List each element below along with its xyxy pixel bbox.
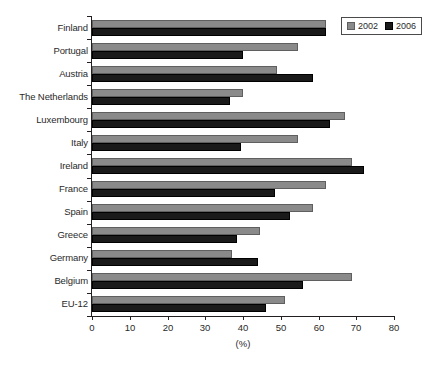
bar-2006 [92,166,364,174]
category-label: Finland [0,23,88,33]
y-axis-tick [87,247,91,248]
category-label: Germany [0,253,88,263]
plot-area: 01020304050607080 [92,16,394,316]
bar-group [92,158,394,174]
legend-label-2006: 2006 [396,21,416,31]
black-square-swatch-icon [385,22,393,30]
category-label: Austria [0,69,88,79]
bar-2002 [92,296,285,304]
category-label: Spain [0,207,88,217]
x-axis-tick-label: 60 [304,322,334,333]
x-axis-tick-label: 20 [153,322,183,333]
bar-group [92,135,394,151]
bar-2002 [92,273,352,281]
bar-2002 [92,181,326,189]
bar-2002 [92,43,298,51]
y-axis-tick [87,16,91,17]
x-axis-tick [130,316,131,320]
y-axis-tick [87,131,91,132]
bar-group [92,250,394,266]
chart-legend: 2002 2006 [341,17,422,35]
x-axis-tick-label: 30 [190,322,220,333]
bar-2006 [92,189,275,197]
bar-2002 [92,89,243,97]
bar-group [92,66,394,82]
bar-2002 [92,204,313,212]
x-axis-tick [205,316,206,320]
bar-2002 [92,158,352,166]
bar-2002 [92,66,277,74]
x-axis-tick-label: 50 [266,322,296,333]
bar-2002 [92,135,298,143]
y-axis-tick [87,270,91,271]
bar-group [92,227,394,243]
y-axis-tick [87,178,91,179]
x-axis-tick-label: 70 [341,322,371,333]
y-axis-tick [87,85,91,86]
bar-2006 [92,28,326,36]
x-axis-tick-label: 10 [115,322,145,333]
bar-2002 [92,20,326,28]
x-axis-tick [281,316,282,320]
bar-2006 [92,212,290,220]
y-axis-tick [87,62,91,63]
x-axis-tick-label: 40 [228,322,258,333]
legend-entry-2002: 2002 [347,21,378,31]
y-axis-tick [87,39,91,40]
bar-2006 [92,51,243,59]
x-axis-tick [92,316,93,320]
bar-2006 [92,258,258,266]
horizontal-bar-chart: FinlandPortugalAustriaThe NetherlandsLux… [0,0,442,366]
bar-group [92,181,394,197]
bar-group [92,89,394,105]
x-axis-tick-label: 0 [77,322,107,333]
y-axis-tick [87,201,91,202]
bar-2002 [92,227,260,235]
y-axis-tick [87,224,91,225]
legend-entry-2006: 2006 [385,21,416,31]
category-label: Greece [0,230,88,240]
gray-square-swatch-icon [347,22,355,30]
bar-group [92,204,394,220]
bar-2006 [92,235,237,243]
category-label: Belgium [0,276,88,286]
bar-2002 [92,112,345,120]
bar-2006 [92,281,303,289]
bar-2006 [92,304,266,312]
y-axis-tick [87,154,91,155]
bar-group [92,273,394,289]
x-axis-title: (%) [92,338,394,349]
bar-group [92,112,394,128]
x-axis-tick [319,316,320,320]
y-axis-tick [87,316,91,317]
bar-2006 [92,143,241,151]
category-label: The Netherlands [0,92,88,102]
x-axis-tick [356,316,357,320]
bar-2006 [92,74,313,82]
category-label: Italy [0,138,88,148]
bar-2002 [92,250,232,258]
bar-2006 [92,97,230,105]
category-label: France [0,184,88,194]
x-axis-tick [394,316,395,320]
x-axis-tick [168,316,169,320]
category-axis-labels: FinlandPortugalAustriaThe NetherlandsLux… [0,16,88,316]
x-axis-tick [243,316,244,320]
bar-2006 [92,120,330,128]
x-axis-tick-label: 80 [379,322,409,333]
bar-group [92,296,394,312]
legend-label-2002: 2002 [358,21,378,31]
category-label: Ireland [0,161,88,171]
y-axis-tick [87,293,91,294]
bar-group [92,43,394,59]
category-label: Luxembourg [0,115,88,125]
y-axis-tick [87,108,91,109]
category-label: Portugal [0,46,88,56]
category-label: EU-12 [0,299,88,309]
